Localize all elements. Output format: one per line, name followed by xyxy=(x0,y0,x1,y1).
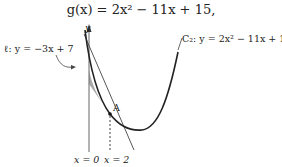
x2-label: x = 2 xyxy=(104,154,129,165)
point-a-label: A xyxy=(113,102,120,113)
x0-label: x = 0 xyxy=(74,154,99,165)
point-a xyxy=(108,112,112,116)
curve-label: C₂: y = 2x² − 11x + 15 xyxy=(182,33,282,44)
graph xyxy=(0,0,282,167)
line-label-leader xyxy=(56,55,73,67)
tangent-line xyxy=(84,34,134,150)
y-axis-label: y xyxy=(85,22,90,33)
line-label: ℓ: y = −3x + 7 xyxy=(4,43,74,54)
shaded-region xyxy=(89,70,110,114)
parabola-curve xyxy=(85,30,178,130)
leader-arrow-icon xyxy=(71,65,76,70)
